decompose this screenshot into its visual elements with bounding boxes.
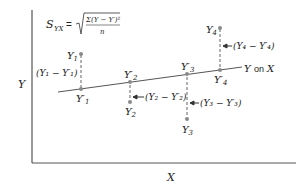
point-y3 xyxy=(185,117,189,121)
label-y1-prime: Y′1 xyxy=(76,93,89,106)
point-y1-prime xyxy=(79,87,83,91)
residual-label-2: (Y₂ − Y′₂) xyxy=(145,92,187,102)
label-y3: Y3 xyxy=(182,124,194,137)
label-y3-prime: Y′3 xyxy=(181,61,195,74)
label-y1: Y1 xyxy=(67,50,78,63)
label-y2: Y2 xyxy=(125,106,137,119)
svg-text:on: on xyxy=(254,64,264,74)
point-y3-prime xyxy=(185,72,189,76)
residual-label-3: (Y₃ − Y′₃) xyxy=(200,98,242,108)
point-y2 xyxy=(128,100,132,104)
label-y2-prime: Y′2 xyxy=(124,69,138,82)
svg-text:Σ(Y − Y′)²: Σ(Y − Y′)² xyxy=(85,16,121,24)
svg-text:Y: Y xyxy=(244,63,252,74)
regression-label: Y on X xyxy=(244,63,275,74)
regression-diagram: S YX = Σ(Y − Y′)² n Y X Y on X Y1 Y′1 Y′… xyxy=(0,0,298,192)
svg-text:n: n xyxy=(100,28,105,36)
svg-text:S: S xyxy=(46,18,54,31)
formula: S YX = Σ(Y − Y′)² n xyxy=(46,13,121,36)
residual-label-1: (Y₁ − Y′₁) xyxy=(36,68,78,78)
point-y4-prime xyxy=(218,68,222,72)
residual-label-4: (Y₄ − Y′₄) xyxy=(233,41,275,51)
point-y1 xyxy=(79,52,83,56)
x-axis-label: X xyxy=(166,171,176,184)
svg-text:YX: YX xyxy=(54,25,65,33)
label-y4: Y4 xyxy=(206,24,217,37)
point-y2-prime xyxy=(128,80,132,84)
label-y4-prime: Y′4 xyxy=(214,74,227,87)
y-axis-label: Y xyxy=(18,78,27,91)
svg-text:X: X xyxy=(266,63,275,74)
svg-text:=: = xyxy=(66,19,72,30)
point-y4 xyxy=(218,26,222,30)
